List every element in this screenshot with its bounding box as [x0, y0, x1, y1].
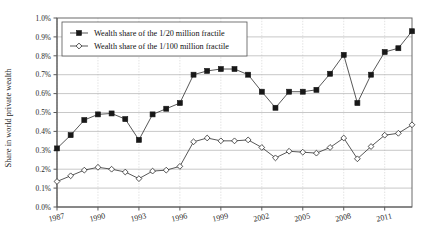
- data-point-square: [150, 112, 155, 117]
- data-point-diamond: [218, 138, 224, 144]
- data-point-square: [77, 31, 82, 36]
- x-tick-label: 2002: [252, 211, 270, 223]
- y-tick-label: 0.3%: [36, 146, 51, 155]
- x-tick-label: 2005: [293, 211, 311, 223]
- y-tick-label: 0.4%: [36, 127, 51, 136]
- data-point-square: [109, 111, 114, 116]
- data-point-square: [232, 67, 237, 72]
- series-line: [57, 125, 412, 182]
- data-point-square: [382, 50, 387, 55]
- y-tick-label: 0.0%: [36, 203, 51, 212]
- data-point-square: [287, 89, 292, 94]
- x-tick-label: 1987: [48, 211, 66, 223]
- data-point-square: [82, 118, 87, 123]
- y-tick-label: 0.9%: [36, 33, 51, 42]
- data-point-diamond: [204, 135, 210, 141]
- data-point-diamond: [122, 169, 128, 175]
- data-point-square: [191, 72, 196, 77]
- data-point-diamond: [163, 167, 169, 173]
- x-tick-label: 1999: [211, 211, 229, 223]
- x-tick-label: 2011: [375, 211, 392, 223]
- data-point-square: [164, 106, 169, 111]
- data-point-square: [55, 146, 60, 151]
- data-point-diamond: [341, 135, 347, 141]
- data-point-diamond: [409, 122, 415, 128]
- data-point-diamond: [245, 137, 251, 143]
- data-point-square: [410, 29, 415, 34]
- data-point-diamond: [109, 166, 115, 172]
- y-tick-label: 0.5%: [36, 108, 51, 117]
- data-point-diamond: [54, 179, 60, 185]
- data-point-square: [246, 72, 251, 77]
- data-point-square: [68, 133, 73, 138]
- x-tick-label: 1996: [171, 211, 189, 223]
- y-tick-label: 0.7%: [36, 70, 51, 79]
- x-axis: 198719901993199619992002200520082011: [48, 207, 412, 224]
- data-point-diamond: [286, 148, 292, 154]
- data-point-square: [218, 67, 223, 72]
- data-point-square: [369, 72, 374, 77]
- data-point-square: [177, 101, 182, 106]
- data-point-square: [123, 117, 128, 122]
- x-tick-label: 1990: [89, 211, 107, 223]
- data-point-square: [396, 46, 401, 51]
- data-point-diamond: [232, 138, 238, 144]
- wealth-share-line-chart: 0.0%0.1%0.2%0.3%0.4%0.5%0.6%0.7%0.8%0.9%…: [0, 0, 423, 238]
- y-tick-label: 0.1%: [36, 184, 51, 193]
- y-tick-label: 0.8%: [36, 52, 51, 61]
- data-point-diamond: [68, 173, 74, 179]
- data-point-square: [341, 52, 346, 57]
- data-point-square: [328, 71, 333, 76]
- x-tick-label: 2008: [334, 211, 352, 223]
- data-point-diamond: [81, 167, 87, 173]
- y-tick-label: 1.0%: [36, 14, 51, 23]
- data-point-square: [314, 87, 319, 92]
- data-point-diamond: [314, 150, 320, 156]
- svg-text:Share in world private wealth: Share in world private wealth: [4, 68, 13, 168]
- legend-label: Wealth share of the 1/20 million fractil…: [94, 29, 225, 38]
- y-tick-label: 0.6%: [36, 89, 51, 98]
- x-tick-label: 1993: [130, 211, 148, 223]
- data-point-square: [300, 89, 305, 94]
- data-point-diamond: [191, 139, 197, 145]
- data-point-square: [259, 89, 264, 94]
- data-point-square: [273, 105, 278, 110]
- chart-legend: Wealth share of the 1/20 million fractil…: [62, 22, 247, 56]
- data-point-square: [355, 101, 360, 106]
- data-point-diamond: [327, 145, 333, 151]
- data-point-diamond: [136, 176, 142, 182]
- data-point-diamond: [177, 163, 183, 169]
- y-axis-title: Share in world private wealth: [4, 68, 13, 168]
- y-axis: 0.0%0.1%0.2%0.3%0.4%0.5%0.6%0.7%0.8%0.9%…: [36, 14, 57, 212]
- data-point-square: [95, 112, 100, 117]
- data-point-square: [205, 68, 210, 73]
- y-tick-label: 0.2%: [36, 165, 51, 174]
- legend-label: Wealth share of the 1/100 million fracti…: [94, 42, 229, 51]
- chart-container: 0.0%0.1%0.2%0.3%0.4%0.5%0.6%0.7%0.8%0.9%…: [0, 0, 423, 238]
- data-point-square: [136, 137, 141, 142]
